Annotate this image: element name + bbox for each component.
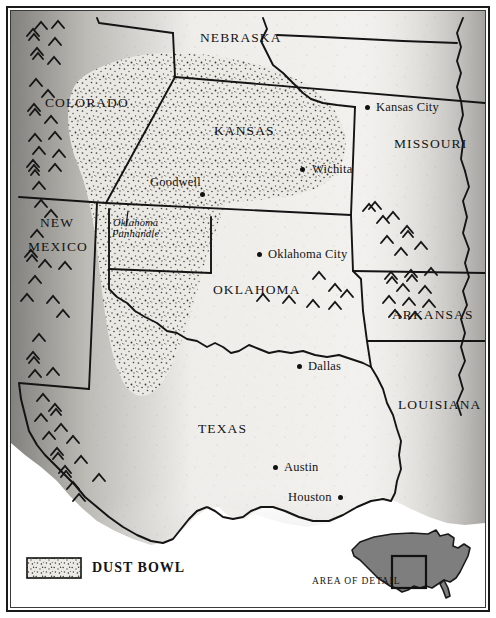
state-label-new-mexico-line2: MEXICO [28, 240, 88, 254]
city-label-dallas: Dallas [308, 360, 341, 373]
state-label-arkansas: ARKANSAS [392, 308, 474, 322]
city-dot-oklahoma-city [257, 252, 262, 257]
inset-label-area-of-detail: AREA OF DETAIL [312, 577, 400, 587]
city-dot-goodwell [200, 192, 205, 197]
state-label-new-mexico-line1: NEW [40, 216, 74, 230]
city-label-kansas-city: Kansas City [376, 101, 439, 114]
city-dot-kansas-city [365, 105, 370, 110]
state-label-oklahoma: OKLAHOMA [213, 283, 301, 297]
state-label-louisiana: LOUISIANA [398, 398, 481, 412]
dust-bowl-map: COLORADO NEBRASKA KANSAS MISSOURI NEW ME… [0, 0, 496, 618]
annotation-oklahoma-panhandle: Oklahoma Panhandle [112, 217, 159, 239]
city-label-wichita: Wichita [312, 163, 352, 176]
city-dot-austin [273, 465, 278, 470]
city-dot-wichita [300, 167, 305, 172]
state-label-kansas: KANSAS [214, 124, 275, 138]
city-label-austin: Austin [284, 461, 319, 474]
state-label-texas: TEXAS [198, 422, 247, 436]
state-label-colorado: COLORADO [45, 96, 129, 110]
city-dot-dallas [297, 364, 302, 369]
panhandle-line1: Oklahoma [112, 217, 159, 228]
city-label-oklahoma-city: Oklahoma City [268, 248, 347, 261]
city-label-houston: Houston [288, 491, 332, 504]
city-label-goodwell: Goodwell [150, 176, 201, 189]
state-label-nebraska: NEBRASKA [200, 31, 282, 45]
panhandle-line2: Panhandle [112, 228, 159, 239]
inset-locator-map [340, 524, 480, 608]
city-dot-houston [338, 495, 343, 500]
dust-bowl-swatch [26, 557, 82, 579]
state-label-missouri: MISSOURI [394, 137, 467, 151]
legend-label-dust-bowl: DUST BOWL [92, 561, 185, 575]
